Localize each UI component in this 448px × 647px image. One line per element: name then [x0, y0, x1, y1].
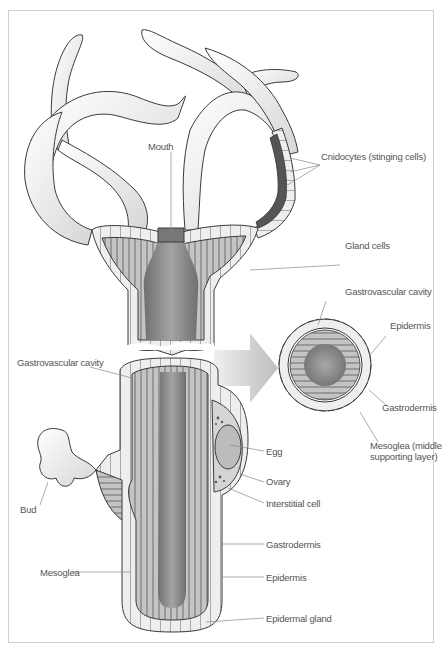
tentacles [25, 30, 299, 245]
cross-section [279, 319, 371, 411]
hydra-diagram [0, 0, 448, 647]
label-bud: Bud [20, 504, 36, 515]
egg [215, 425, 241, 469]
lower-cavity [158, 372, 186, 608]
label-epidermal-gland: Epidermal gland [266, 613, 332, 624]
label-cs-epidermis: Epidermis [390, 320, 430, 331]
label-gland-cells: Gland cells [345, 240, 390, 251]
label-mouth: Mouth [148, 141, 173, 152]
label-cs-mesoglea: Mesoglea (middle supporting layer) [370, 440, 448, 462]
label-cs-gastrodermis: Gastrodermis [382, 402, 437, 413]
label-mesoglea: Mesoglea [40, 567, 80, 578]
label-gastrovascular-cavity: Gastrovascular cavity [17, 357, 104, 368]
label-cs-gastrovascular-cavity: Gastrovascular cavity [345, 286, 432, 297]
label-egg: Egg [266, 446, 282, 457]
label-interstitial-cell: Interstitial cell [266, 498, 320, 509]
label-ovary: Ovary [266, 476, 290, 487]
label-epidermis: Epidermis [266, 572, 306, 583]
label-cnidocytes: Cnidocytes (stinging cells) [321, 151, 426, 162]
label-gastrodermis: Gastrodermis [266, 539, 321, 550]
upper-body [92, 225, 258, 355]
